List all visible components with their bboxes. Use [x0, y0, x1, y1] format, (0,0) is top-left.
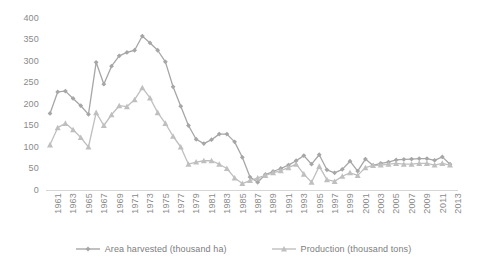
x-tick-label: 1983: [223, 193, 232, 214]
x-tick-label: 1981: [208, 193, 217, 214]
x-tick-label: 2007: [408, 193, 417, 214]
diamond-marker: [48, 111, 53, 116]
series-line: [50, 36, 450, 182]
triangle-marker: [324, 177, 330, 183]
x-tick-label: 1989: [269, 193, 278, 214]
triangle-marker: [47, 142, 53, 148]
x-tick-label: 1995: [316, 193, 325, 214]
y-tick-label: 250: [23, 78, 39, 87]
diamond-marker: [85, 247, 90, 252]
y-axis: 050100150200250300350400: [0, 0, 44, 208]
diamond-marker: [401, 157, 406, 162]
triangle-marker: [216, 161, 222, 167]
diamond-marker: [425, 156, 430, 161]
x-tick-label: 1993: [300, 193, 309, 214]
y-tick-label: 0: [34, 186, 39, 195]
x-tick-label: 2011: [439, 193, 448, 213]
x-tick-label: 2013: [454, 193, 463, 214]
diamond-marker: [94, 60, 99, 65]
diamond-marker: [171, 84, 176, 89]
series-1: [48, 34, 453, 185]
x-axis: 1961196319651967196919711973197519771979…: [48, 193, 460, 233]
line-chart: 050100150200250300350400 196119631965196…: [0, 0, 486, 266]
diamond-marker: [178, 104, 183, 109]
diamond-marker: [75, 244, 101, 254]
x-tick-label: 1969: [116, 193, 125, 214]
diamond-marker: [132, 48, 137, 53]
plot-area: [48, 18, 458, 190]
triangle-marker: [339, 173, 345, 179]
plot-svg: [48, 18, 458, 190]
triangle-marker: [62, 120, 68, 126]
diamond-marker: [417, 156, 422, 161]
diamond-marker: [332, 170, 337, 175]
diamond-marker: [101, 82, 106, 87]
y-tick-label: 200: [23, 100, 39, 109]
diamond-marker: [432, 158, 437, 163]
y-tick-label: 150: [23, 121, 39, 130]
y-tick-label: 300: [23, 57, 39, 66]
triangle-marker: [224, 166, 230, 172]
x-tick-label: 1999: [346, 193, 355, 214]
y-tick-label: 400: [23, 14, 39, 23]
x-tick-label: 1975: [162, 193, 171, 214]
x-tick-label: 1997: [331, 193, 340, 214]
series-line: [50, 88, 450, 184]
triangle-marker: [93, 110, 99, 116]
triangle-marker: [170, 133, 176, 139]
chart-legend: Area harvested (thousand ha)Production (…: [0, 239, 486, 259]
x-tick-label: 1967: [100, 193, 109, 214]
legend-label: Area harvested (thousand ha): [105, 244, 227, 254]
y-tick-label: 350: [23, 35, 39, 44]
triangle-marker: [316, 163, 322, 169]
x-tick-label: 2001: [362, 193, 371, 214]
diamond-marker: [55, 90, 60, 95]
legend-label: Production (thousand tons): [301, 244, 412, 254]
diamond-marker: [325, 167, 330, 172]
x-tick-label: 1985: [239, 193, 248, 214]
x-tick-label: 2009: [423, 193, 432, 214]
x-tick-label: 1961: [54, 193, 63, 214]
y-tick-label: 50: [29, 164, 39, 173]
triangle-marker: [139, 85, 145, 91]
x-tick-label: 1991: [285, 193, 294, 214]
diamond-marker: [240, 155, 245, 160]
x-axis-line: [46, 190, 458, 191]
triangle-marker: [439, 160, 445, 166]
x-tick-label: 1979: [192, 193, 201, 214]
x-tick-label: 2003: [377, 193, 386, 214]
y-tick-label: 100: [23, 143, 39, 152]
triangle-marker: [155, 110, 161, 116]
x-tick-label: 1977: [177, 193, 186, 214]
diamond-marker: [409, 157, 414, 162]
x-tick-label: 1987: [254, 193, 263, 214]
triangle-marker: [55, 125, 61, 131]
series-2: [47, 85, 453, 186]
diamond-marker: [125, 50, 130, 55]
x-tick-label: 1973: [146, 193, 155, 214]
x-tick-label: 1963: [69, 193, 78, 214]
triangle-marker: [271, 244, 297, 254]
triangle-marker: [347, 170, 353, 176]
legend-item-2[interactable]: Production (thousand tons): [271, 244, 412, 254]
x-tick-label: 2005: [392, 193, 401, 214]
x-tick-label: 1971: [131, 193, 140, 214]
legend-item-1[interactable]: Area harvested (thousand ha): [75, 244, 227, 254]
x-tick-label: 1965: [85, 193, 94, 214]
